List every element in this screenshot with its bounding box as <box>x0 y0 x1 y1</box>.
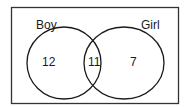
venn-diagram <box>0 0 185 107</box>
intersection-value: 11 <box>88 56 100 68</box>
girl-label: Girl <box>141 19 160 31</box>
boy-only-value: 12 <box>42 56 55 68</box>
boy-label: Boy <box>36 19 57 31</box>
girl-only-value: 7 <box>130 56 137 68</box>
